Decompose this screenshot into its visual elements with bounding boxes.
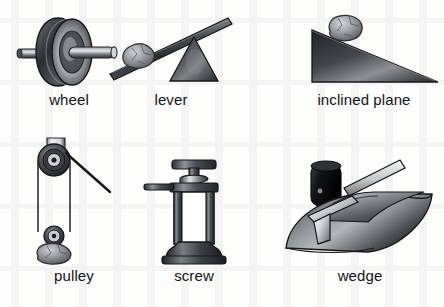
inclined-plane-ramp <box>312 30 438 82</box>
pulley-rock <box>37 243 71 264</box>
inclined-plane-label: inclined plane <box>288 92 440 108</box>
inclined-plane-illustration <box>292 14 440 92</box>
lever-label: lever <box>108 92 234 108</box>
screw-collar <box>144 183 218 192</box>
pulley-upper-wheel <box>38 144 70 176</box>
screw-body <box>174 192 214 244</box>
pulley-label: pulley <box>16 268 132 284</box>
screw-base <box>162 242 226 264</box>
wedge-label: wedge <box>282 268 438 284</box>
screw-illustration <box>142 158 246 266</box>
lever-illustration <box>108 12 234 92</box>
pulley-illustration <box>20 136 130 266</box>
lever-rock <box>123 44 155 68</box>
simple-machines-figure: wheel <box>0 0 444 307</box>
wedge-log <box>286 192 432 253</box>
inclined-plane-rock <box>329 15 362 40</box>
wedge-mallet-handle <box>344 160 405 196</box>
screw-label: screw <box>142 268 246 284</box>
wedge-illustration <box>282 152 438 266</box>
